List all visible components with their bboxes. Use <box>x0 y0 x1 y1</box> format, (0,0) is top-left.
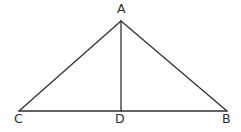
vertex-label-c: C <box>14 113 23 126</box>
geometry-figure: A C D B <box>0 0 241 132</box>
vertex-label-b: B <box>222 113 231 126</box>
vertex-label-a: A <box>117 3 126 16</box>
vertex-label-d: D <box>115 113 125 126</box>
